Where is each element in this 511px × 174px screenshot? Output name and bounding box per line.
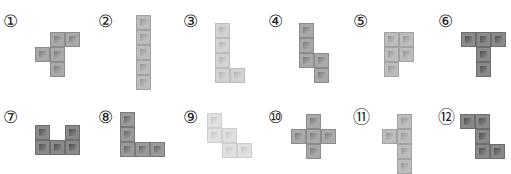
block-cell [476, 47, 491, 62]
block-cell [461, 32, 476, 47]
block-cell [136, 75, 151, 90]
block-cell [314, 53, 329, 68]
block-cell [222, 128, 237, 143]
block-cell [120, 127, 135, 142]
block-cell [299, 53, 314, 68]
block-cell [306, 144, 321, 159]
block-cell [136, 15, 151, 30]
block-cell [120, 142, 135, 157]
block-cell [476, 32, 491, 47]
block-cell [384, 62, 399, 77]
block-cell [397, 144, 412, 159]
block-cell [397, 129, 412, 144]
block-cell [35, 47, 50, 62]
block-cell [215, 53, 230, 68]
block-cell [230, 68, 245, 83]
figure-label: ⑥ [438, 12, 453, 30]
block-cell [207, 113, 222, 128]
block-cell [65, 125, 80, 140]
block-cell [50, 32, 65, 47]
block-cell [475, 114, 490, 129]
block-cell [136, 45, 151, 60]
figure-label: ④ [268, 12, 283, 30]
block-cell [397, 159, 412, 174]
figure-label: ⑩ [268, 108, 283, 126]
block-cell [314, 68, 329, 83]
block-cell [306, 129, 321, 144]
block-cell [120, 112, 135, 127]
block-cell [299, 38, 314, 53]
block-cell [490, 144, 505, 159]
block-cell [207, 128, 222, 143]
block-cell [306, 114, 321, 129]
figure-label: ⑨ [183, 108, 198, 126]
block-cell [222, 143, 237, 158]
block-cell [291, 129, 306, 144]
block-cell [50, 62, 65, 77]
figure-label: ② [98, 12, 113, 30]
block-cell [215, 23, 230, 38]
block-cell [35, 125, 50, 140]
block-cell [399, 47, 414, 62]
figure-label: ⑦ [3, 108, 18, 126]
block-cell [215, 68, 230, 83]
block-cell [460, 114, 475, 129]
block-cell [215, 38, 230, 53]
block-cell [382, 129, 397, 144]
block-cell [384, 47, 399, 62]
block-cell [35, 140, 50, 155]
block-cell [136, 30, 151, 45]
block-cell [50, 140, 65, 155]
block-cell [321, 129, 336, 144]
block-cell [475, 144, 490, 159]
block-cell [150, 142, 165, 157]
block-cell [299, 23, 314, 38]
block-cell [491, 32, 506, 47]
block-cell [135, 142, 150, 157]
figure-label: ⑧ [98, 108, 113, 126]
block-cell [476, 62, 491, 77]
figure-label: ⑫ [438, 108, 455, 126]
block-cell [65, 32, 80, 47]
figure-label: ① [3, 12, 18, 30]
figure-label: ③ [183, 12, 198, 30]
block-cell [399, 32, 414, 47]
figure-label: ⑤ [353, 12, 368, 30]
figure-label: ⑪ [353, 108, 370, 126]
block-cell [384, 32, 399, 47]
block-cell [475, 129, 490, 144]
block-cell [237, 143, 252, 158]
block-cell [397, 114, 412, 129]
block-cell [50, 47, 65, 62]
block-cell [65, 140, 80, 155]
block-cell [136, 60, 151, 75]
